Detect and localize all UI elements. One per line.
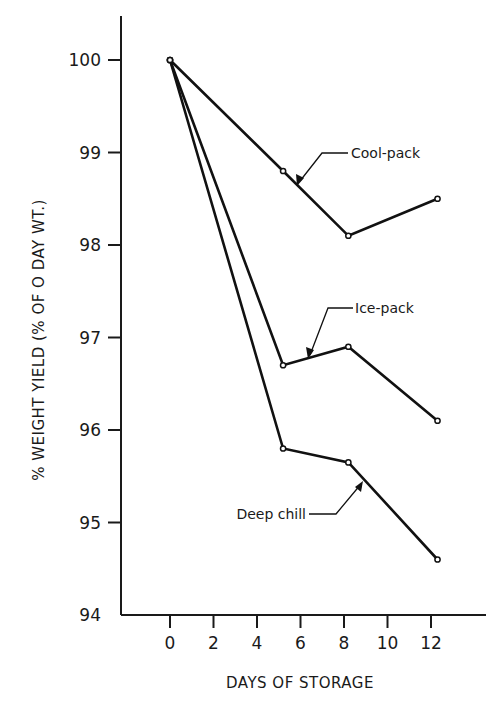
- cool-pack-data-point: [435, 196, 440, 201]
- cool-pack-label: Cool-pack: [351, 145, 421, 161]
- cool-pack-data-point: [281, 168, 286, 173]
- y-tick-label: 94: [79, 605, 101, 625]
- x-tick-label: 12: [420, 633, 442, 653]
- x-tick-label: 6: [295, 633, 306, 653]
- deep-chill-data-point: [435, 557, 440, 562]
- y-tick-label: 100: [69, 50, 101, 70]
- x-tick-label: 0: [165, 633, 176, 653]
- ice-pack-data-point: [435, 418, 440, 423]
- deep-chill-data-point: [281, 446, 286, 451]
- x-tick-label: 10: [377, 633, 399, 653]
- x-tick-label: 2: [208, 633, 219, 653]
- x-axis-title: DAYS OF STORAGE: [226, 674, 374, 692]
- ice-pack-annotation: Ice-pack: [306, 300, 415, 359]
- ice-pack-data-point: [281, 363, 286, 368]
- cool-pack-leader-line: [300, 153, 348, 181]
- deep-chill-annotation: Deep chill: [236, 481, 363, 522]
- cool-pack-arrow-icon: [296, 174, 304, 186]
- y-tick-label: 97: [79, 328, 101, 348]
- x-tick-label: 4: [252, 633, 263, 653]
- ice-pack-data-point: [346, 344, 351, 349]
- deep-chill-leader-line: [309, 484, 361, 514]
- cool-pack-data-point: [346, 233, 351, 238]
- y-axis-title: % WEIGHT YIELD (% OF O DAY WT.): [30, 199, 48, 481]
- deep-chill-data-point: [346, 460, 351, 465]
- y-axis-ticks: 949596979899100: [69, 50, 121, 625]
- ice-pack-label: Ice-pack: [355, 300, 415, 316]
- y-tick-label: 98: [79, 235, 101, 255]
- x-axis-ticks: 024681012: [165, 615, 442, 653]
- cool-pack-annotation: Cool-pack: [296, 145, 421, 186]
- x-tick-label: 8: [339, 633, 350, 653]
- y-tick-label: 99: [79, 143, 101, 163]
- deep-chill-data-point: [167, 57, 172, 62]
- deep-chill-label: Deep chill: [236, 506, 306, 522]
- y-tick-label: 96: [79, 420, 101, 440]
- line-chart: 949596979899100 024681012 DAYS OF STORAG…: [0, 0, 498, 708]
- ice-pack-line: [170, 60, 438, 421]
- y-tick-label: 95: [79, 513, 101, 533]
